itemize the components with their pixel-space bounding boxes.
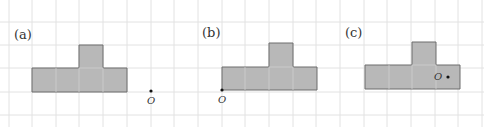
grid (0, 0, 484, 127)
t-shape (222, 43, 317, 90)
point-o (149, 89, 152, 92)
panel-label: (b) (202, 25, 220, 40)
panel-c: (c) O (345, 25, 460, 89)
point-o (220, 88, 223, 91)
figure: (a) O (b) O (c) O (0, 0, 484, 127)
point-label: O (147, 95, 155, 106)
t-shape (32, 45, 127, 92)
point-label: O (434, 71, 442, 82)
panel-label: (c) (345, 25, 362, 40)
panel-a: (a) O (14, 27, 155, 106)
point-label: O (218, 94, 226, 105)
point-o (446, 75, 449, 78)
panel-label: (a) (14, 27, 32, 42)
t-shape (365, 42, 460, 89)
panel-b: (b) O (202, 25, 317, 105)
